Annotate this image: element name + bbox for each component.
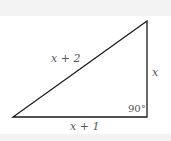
right-angle-label: 90° xyxy=(128,103,146,114)
horizontal-leg-label: x + 1 xyxy=(70,120,99,133)
hypotenuse-label: x + 2 xyxy=(51,52,80,65)
vertical-leg-label: x xyxy=(152,66,158,79)
